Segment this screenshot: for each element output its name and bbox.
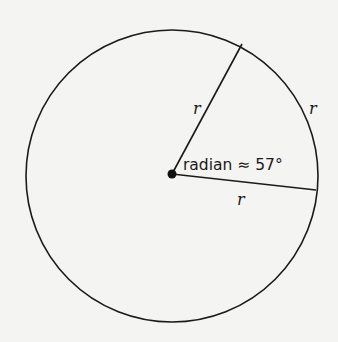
- angle-label: radian ≈ 57°: [183, 156, 283, 174]
- radian-diagram: r r r radian ≈ 57°: [0, 0, 338, 342]
- upper-radius-label: r: [193, 99, 202, 118]
- lower-radius-line: [172, 174, 316, 190]
- upper-radius-line: [172, 44, 242, 174]
- center-point: [168, 170, 177, 179]
- lower-radius-label: r: [237, 190, 246, 209]
- arc-label: r: [309, 99, 318, 118]
